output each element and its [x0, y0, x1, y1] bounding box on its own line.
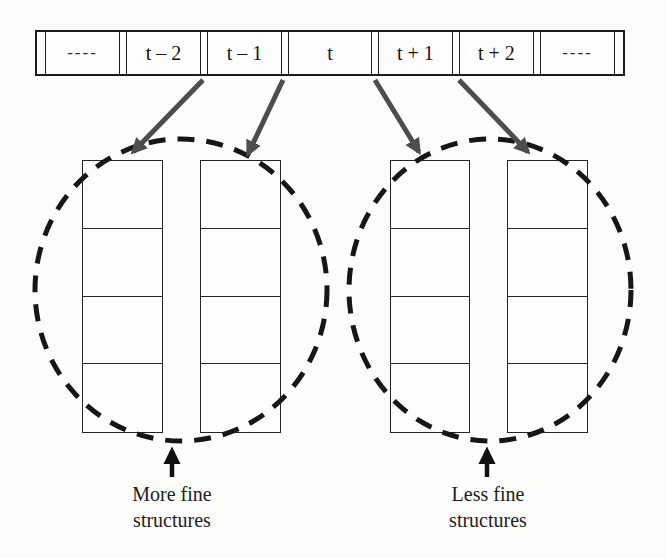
dashed-ellipse-left [35, 139, 327, 441]
timeline-cell-t-plus-2: t + 2 [460, 32, 533, 74]
connector-arrow-2 [248, 80, 283, 154]
connector-arrow-3 [375, 80, 419, 152]
grid-column-left-2 [200, 160, 281, 433]
grid-cell [391, 297, 469, 365]
timeline-cell-t: t [289, 32, 371, 74]
timeline-endcap-left [37, 32, 46, 74]
connector-arrow-4 [459, 80, 528, 152]
timeline-separator [452, 32, 460, 74]
timeline-separator [371, 32, 379, 74]
grid-cell [83, 297, 162, 365]
grid-cell [201, 229, 280, 297]
timeline-bar: ---- t – 2 t – 1 t t + 1 t + 2 ---- [35, 30, 625, 76]
grid-column-left-1 [82, 160, 163, 433]
caption-line: Less fine [408, 481, 568, 507]
grid-cell [391, 161, 469, 229]
grid-cell [508, 229, 587, 297]
timeline-separator [200, 32, 208, 74]
caption-less-fine-structures: Less fine structures [408, 481, 568, 533]
figure-canvas: ---- t – 2 t – 1 t t + 1 t + 2 ---- [0, 0, 666, 558]
grid-cell [83, 364, 162, 432]
grid-cell [83, 161, 162, 229]
grid-cell [201, 297, 280, 365]
timeline-cell-t-minus-1: t – 1 [208, 32, 281, 74]
caption-line: More fine [92, 481, 252, 507]
grid-cell [201, 161, 280, 229]
timeline-endcap-right [614, 32, 623, 74]
connector-arrow-1 [133, 80, 203, 152]
timeline-separator [281, 32, 289, 74]
timeline-cell-t-plus-1: t + 1 [379, 32, 452, 74]
caption-line: structures [408, 507, 568, 533]
timeline-separator [533, 32, 541, 74]
grid-cell [201, 364, 280, 432]
timeline-separator [119, 32, 127, 74]
grid-cell [83, 229, 162, 297]
caption-more-fine-structures: More fine structures [92, 481, 252, 533]
grid-cell [508, 161, 587, 229]
timeline-cell-ellipsis-left: ---- [46, 32, 119, 74]
caption-line: structures [92, 507, 252, 533]
grid-column-right-1 [390, 160, 470, 433]
grid-cell [508, 364, 587, 432]
timeline-cell-ellipsis-right: ---- [541, 32, 614, 74]
grid-cell [391, 229, 469, 297]
timeline-cell-t-minus-2: t – 2 [127, 32, 200, 74]
grid-cell [391, 364, 469, 432]
grid-cell [508, 297, 587, 365]
grid-column-right-2 [507, 160, 588, 433]
